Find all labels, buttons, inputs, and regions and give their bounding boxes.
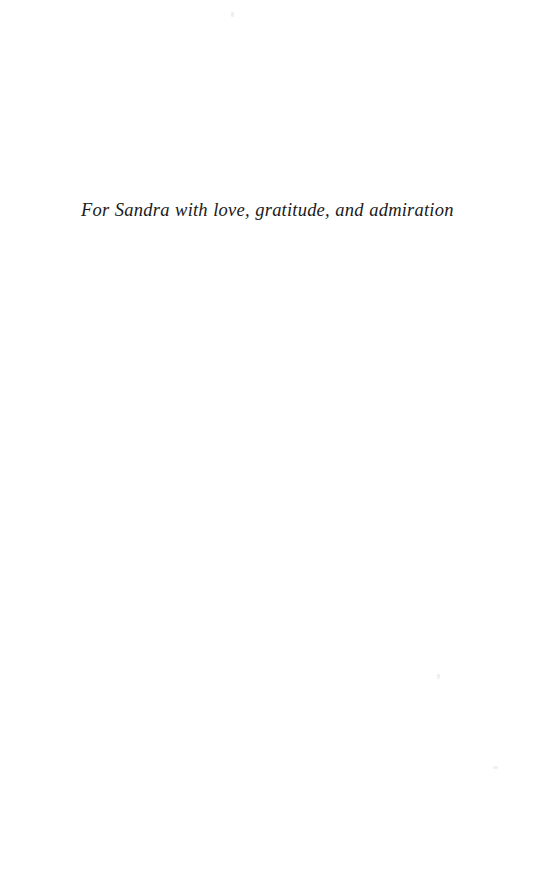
paper-speck-right-upper: [437, 674, 440, 679]
paper-speck-right-lower: [493, 766, 498, 769]
dedication-block: For Sandra with love, gratitude, and adm…: [81, 197, 481, 223]
document-page: For Sandra with love, gratitude, and adm…: [0, 0, 555, 884]
dedication-text: For Sandra with love, gratitude, and adm…: [81, 197, 481, 223]
paper-speck-top: [231, 12, 234, 17]
